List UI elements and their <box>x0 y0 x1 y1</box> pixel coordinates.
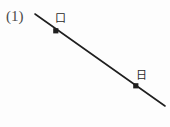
line-segment <box>35 14 165 106</box>
point-marker-b <box>133 83 138 88</box>
figure-canvas <box>0 0 170 127</box>
point-marker-a <box>53 28 58 33</box>
geometry-figure: (1) 口 日 <box>0 0 170 127</box>
figure-number-label: (1) <box>6 9 24 24</box>
point-label-a: 口 <box>55 13 66 24</box>
point-label-b: 日 <box>136 70 147 81</box>
